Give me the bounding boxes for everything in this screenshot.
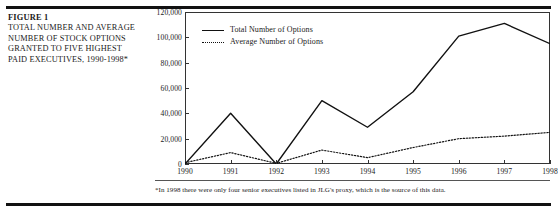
x-axis-tick-mark [459,160,460,164]
y-axis-tick-mark [185,37,189,38]
x-axis-tick-label: 1995 [405,167,421,176]
x-axis-tick-label: 1993 [314,167,330,176]
x-axis-tick-mark [231,160,232,164]
legend-item-total: Total Number of Options [202,24,323,36]
x-axis-tick-mark [368,160,369,164]
legend-label-total: Total Number of Options [230,24,313,36]
y-axis-tick-label: 60,000 [161,84,182,93]
y-axis-tick-mark [185,63,189,64]
footnote-divider-rule [155,180,550,181]
chart-plot-area: 020,00040,00060,00080,000100,000120,000 … [140,12,550,167]
chart-legend: Total Number of Options Average Number o… [202,24,323,48]
bottom-divider-rule [6,203,551,206]
x-axis-tick-label: 1994 [360,167,376,176]
legend-swatch-dotted-icon [202,38,224,46]
y-axis-tick-label: 100,000 [157,33,182,42]
y-axis-labels: 020,00040,00060,00080,000100,000120,000 [140,12,182,167]
y-axis-tick-mark [185,113,189,114]
y-axis-tick-label: 80,000 [161,58,182,67]
top-divider-rule [6,6,551,9]
x-axis-tick-label: 1992 [268,167,284,176]
series-line-average-number-of-options [185,132,550,163]
legend-swatch-solid-icon [202,26,224,34]
x-axis-labels: 199019911992199319941995199619971998 [185,165,550,181]
legend-label-average: Average Number of Options [230,36,323,48]
legend-item-average: Average Number of Options [202,36,323,48]
figure-label: FIGURE 1 [8,13,136,23]
x-axis-tick-mark [550,160,551,164]
x-axis-tick-mark [504,160,505,164]
x-axis-tick-mark [413,160,414,164]
x-axis-tick-label: 1991 [223,167,239,176]
x-axis-tick-label: 1996 [451,167,467,176]
y-axis-tick-mark [185,88,189,89]
x-axis-tick-mark [276,160,277,164]
figure-caption: FIGURE 1 TOTAL NUMBER AND AVERAGE NUMBER… [8,13,136,65]
y-axis-tick-label: 120,000 [157,8,182,17]
y-axis-tick-label: 40,000 [161,109,182,118]
y-axis-tick-mark [185,139,189,140]
y-axis-tick-mark [185,12,189,13]
figure-title: TOTAL NUMBER AND AVERAGE NUMBER OF STOCK… [8,23,136,65]
x-axis-tick-label: 1998 [542,167,558,176]
y-axis-tick-label: 20,000 [161,134,182,143]
x-axis-tick-mark [322,160,323,164]
figure-footnote: *In 1998 there were only four senior exe… [155,186,550,195]
x-axis-tick-label: 1990 [177,167,193,176]
x-axis-tick-label: 1997 [497,167,513,176]
